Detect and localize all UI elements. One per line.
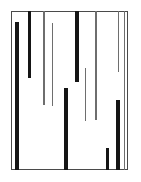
bar-segment xyxy=(85,68,86,121)
bar-segments-layer xyxy=(0,0,141,182)
bar-segment xyxy=(75,11,79,82)
bar-segment xyxy=(28,11,31,78)
bar-segment xyxy=(118,11,119,72)
bar-segment xyxy=(116,100,120,170)
bar-segment xyxy=(124,11,125,170)
figure-root xyxy=(0,0,141,182)
bar-segment xyxy=(52,23,53,106)
bar-segment xyxy=(106,148,109,170)
bar-segment xyxy=(43,11,45,105)
bar-segment xyxy=(95,11,97,120)
bar-segment xyxy=(64,88,68,170)
bar-segment xyxy=(15,22,19,170)
